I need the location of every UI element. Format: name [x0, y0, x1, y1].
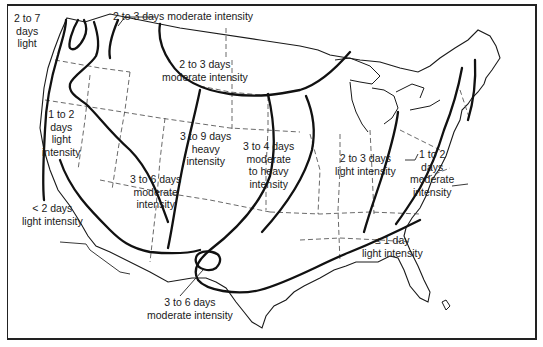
label-line: intensity — [130, 198, 181, 211]
label-line: 2 to 3 days moderate intensity — [113, 10, 253, 23]
label-line: 3 to 6 days — [130, 173, 181, 186]
label-line: light intensity — [22, 215, 83, 228]
label-pnw-coast: 2 to 7 days light — [14, 12, 40, 50]
label-line: heavy — [180, 143, 231, 156]
label-line: 2 to 3 days — [162, 58, 248, 71]
label-line: 3 to 4 days — [243, 140, 294, 153]
label-line: 2 to 7 — [14, 12, 40, 25]
label-line: < 2 days — [22, 202, 83, 215]
label-southeast: ≤ 1 day light intensity — [362, 234, 423, 259]
label-line: light intensity — [335, 165, 396, 178]
label-line: moderate — [410, 173, 454, 186]
label-line: 1 to 2 — [42, 108, 81, 121]
label-line: moderate intensity — [147, 309, 233, 322]
label-e-plains: 3 to 4 days moderate to heavy intensity — [243, 140, 294, 190]
label-great-basin: 1 to 2 days light intensity — [42, 108, 81, 158]
label-c-plains: 3 to 9 days heavy intensity — [180, 130, 231, 168]
label-sw-texas: 3 to 6 days moderate intensity — [147, 296, 233, 321]
label-line: 1 to 2 — [410, 148, 454, 161]
label-line: 3 to 9 days — [180, 130, 231, 143]
label-s-california: < 2 days light intensity — [22, 202, 83, 227]
label-line: intensity — [180, 155, 231, 168]
label-line: intensity — [410, 186, 454, 199]
label-line: ≤ 1 day — [362, 234, 423, 247]
label-line: light intensity — [362, 247, 423, 260]
label-line: days — [14, 25, 40, 38]
label-line: light — [14, 37, 40, 50]
label-line: moderate — [243, 153, 294, 166]
label-line: 3 to 6 days — [147, 296, 233, 309]
label-n-rockies: 2 to 3 days moderate intensity — [113, 10, 253, 23]
label-line: intensity — [42, 146, 81, 159]
label-line: to heavy — [243, 165, 294, 178]
label-sw-plateau: 3 to 6 days moderate intensity — [130, 173, 181, 211]
label-line: light — [42, 133, 81, 146]
label-line: days — [42, 121, 81, 134]
label-appalachians: 1 to 2 days moderate intensity — [410, 148, 454, 198]
label-line: moderate intensity — [162, 71, 248, 84]
label-ohio-valley: 2 to 3 days light intensity — [335, 152, 396, 177]
label-line: moderate — [130, 186, 181, 199]
label-line: days — [410, 161, 454, 174]
label-n-plains: 2 to 3 days moderate intensity — [162, 58, 248, 83]
label-line: intensity — [243, 178, 294, 191]
lake-okeechobee — [442, 300, 450, 310]
label-line: 2 to 3 days — [335, 152, 396, 165]
